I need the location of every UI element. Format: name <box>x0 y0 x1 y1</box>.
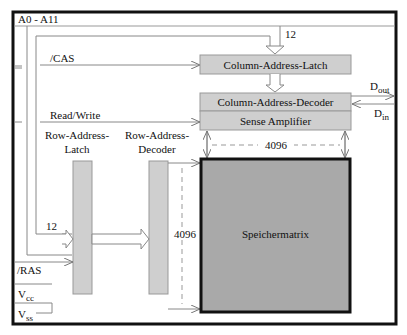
ras-label: /RAS <box>17 264 41 276</box>
row-bus-width: 12 <box>46 220 57 232</box>
svg-text:Row-Address-: Row-Address- <box>45 129 109 141</box>
read-write-label: Read/Write <box>50 109 100 121</box>
svg-text:Speichermatrix: Speichermatrix <box>242 228 310 240</box>
row-count: 4096 <box>174 228 197 240</box>
row-address-latch <box>73 161 92 294</box>
column-count: 4096 <box>265 139 288 151</box>
svg-text:Column-Address-Decoder: Column-Address-Decoder <box>217 96 333 108</box>
svg-text:Decoder: Decoder <box>138 143 176 155</box>
svg-text:Row-Address-: Row-Address- <box>125 129 189 141</box>
svg-text:Sense Amplifier: Sense Amplifier <box>240 115 312 127</box>
cas-label: /CAS <box>50 52 74 64</box>
dram-diagram: A0 - A11 12 /CAS Column-Address-Latch Co… <box>0 0 407 335</box>
svg-text:Latch: Latch <box>64 143 90 155</box>
address-label: A0 - A11 <box>18 13 59 25</box>
svg-text:Column-Address-Latch: Column-Address-Latch <box>224 59 328 71</box>
row-address-decoder <box>149 161 168 294</box>
column-bus-width: 12 <box>285 28 296 40</box>
